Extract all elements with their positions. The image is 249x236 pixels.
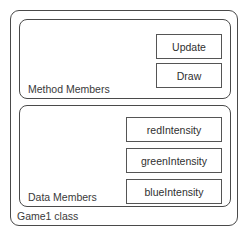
data-member-redintensity[interactable]: redIntensity xyxy=(126,117,222,142)
data-member-greenintensity-label: greenIntensity xyxy=(141,155,207,167)
method-member-draw-label: Draw xyxy=(177,70,202,82)
method-member-update-label: Update xyxy=(172,41,206,53)
data-members-label: Data Members xyxy=(28,191,97,203)
data-members-section: redIntensity greenIntensity blueIntensit… xyxy=(19,105,231,207)
data-member-redintensity-label: redIntensity xyxy=(147,124,201,136)
method-members-label: Method Members xyxy=(28,83,110,95)
data-member-greenintensity[interactable]: greenIntensity xyxy=(126,148,222,173)
method-member-draw[interactable]: Draw xyxy=(156,63,222,88)
data-member-blueintensity-label: blueIntensity xyxy=(145,186,204,198)
method-member-update[interactable]: Update xyxy=(156,34,222,59)
data-member-blueintensity[interactable]: blueIntensity xyxy=(126,179,222,204)
method-members-section: Update Draw Method Members xyxy=(19,19,231,99)
game1-class-box: Update Draw Method Members redIntensity … xyxy=(10,10,238,226)
class-diagram: Update Draw Method Members redIntensity … xyxy=(0,0,249,236)
class-name-label: Game1 class xyxy=(17,210,78,222)
